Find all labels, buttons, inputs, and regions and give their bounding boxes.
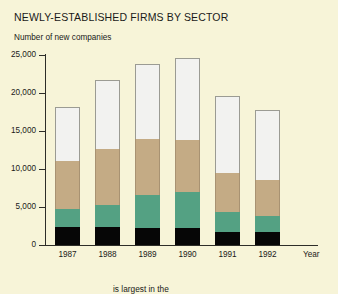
plot-area: 25,00020,00015,00010,0005,0000 198719881… — [0, 0, 338, 294]
bar-segment-sector-3 — [175, 140, 200, 192]
bar-segment-sector-2 — [135, 195, 160, 228]
y-axis-line — [45, 54, 46, 246]
x-axis-tick-label: 1987 — [48, 250, 88, 259]
bar-segment-sector-2 — [175, 192, 200, 228]
y-axis-tick — [39, 55, 45, 56]
y-axis-tick-label-text: 0 — [31, 240, 36, 249]
bar-segment-sector-2 — [255, 216, 280, 232]
y-axis-tick — [39, 169, 45, 170]
x-axis-tick-label: 1992 — [248, 250, 288, 259]
y-axis-tick-label: 15,000 — [0, 126, 36, 136]
bar-segment-sector-4 — [255, 110, 280, 180]
bar-segment-sector-1 — [135, 228, 160, 245]
y-axis-tick-label-text: 5,000 — [16, 202, 37, 211]
y-axis-tick-label-text: 25,000 — [11, 50, 36, 59]
y-axis-tick-label-text: 15,000 — [11, 126, 36, 135]
x-axis-tick-label: 1991 — [208, 250, 248, 259]
bar-segment-sector-4 — [95, 80, 120, 149]
bar-segment-sector-1 — [255, 232, 280, 245]
bar-segment-sector-2 — [55, 209, 80, 227]
chart-figure: NEWLY-ESTABLISHED FIRMS BY SECTOR Number… — [0, 0, 338, 294]
bar-segment-sector-3 — [135, 139, 160, 195]
bar-segment-sector-3 — [255, 180, 280, 216]
bar-segment-sector-1 — [95, 227, 120, 245]
bar-segment-sector-1 — [55, 227, 80, 245]
bar-segment-sector-4 — [135, 64, 160, 139]
bar-segment-sector-1 — [175, 228, 200, 245]
bar-segment-sector-2 — [215, 212, 240, 232]
bar-segment-sector-2 — [95, 205, 120, 227]
figure-caption: is largest in the — [113, 284, 338, 294]
y-axis-tick — [39, 207, 45, 208]
y-axis-tick-label: 20,000 — [0, 88, 36, 98]
bar-segment-sector-4 — [215, 96, 240, 173]
bar-segment-sector-1 — [215, 232, 240, 245]
bar-segment-sector-4 — [55, 107, 80, 161]
y-axis-tick-label: 0 — [0, 240, 36, 250]
bar-segment-sector-3 — [215, 173, 240, 212]
bar-segment-sector-4 — [175, 58, 200, 140]
y-axis-tick-label: 10,000 — [0, 164, 36, 174]
x-axis-tick-label: 1989 — [128, 250, 168, 259]
y-axis-tick — [39, 131, 45, 132]
y-axis-tick — [39, 93, 45, 94]
x-axis-tick-label: 1988 — [88, 250, 128, 259]
y-axis-tick-label-text: 10,000 — [11, 164, 36, 173]
x-axis-tick-label: 1990 — [168, 250, 208, 259]
y-axis-tick — [39, 245, 45, 246]
y-axis-tick-label-text: 20,000 — [11, 88, 36, 97]
y-axis-tick-label: 25,000 — [0, 50, 36, 60]
bar-segment-sector-3 — [55, 161, 80, 209]
bar-segment-sector-3 — [95, 149, 120, 205]
x-axis-label: Year — [303, 250, 320, 259]
y-axis-tick-label: 5,000 — [0, 202, 36, 212]
